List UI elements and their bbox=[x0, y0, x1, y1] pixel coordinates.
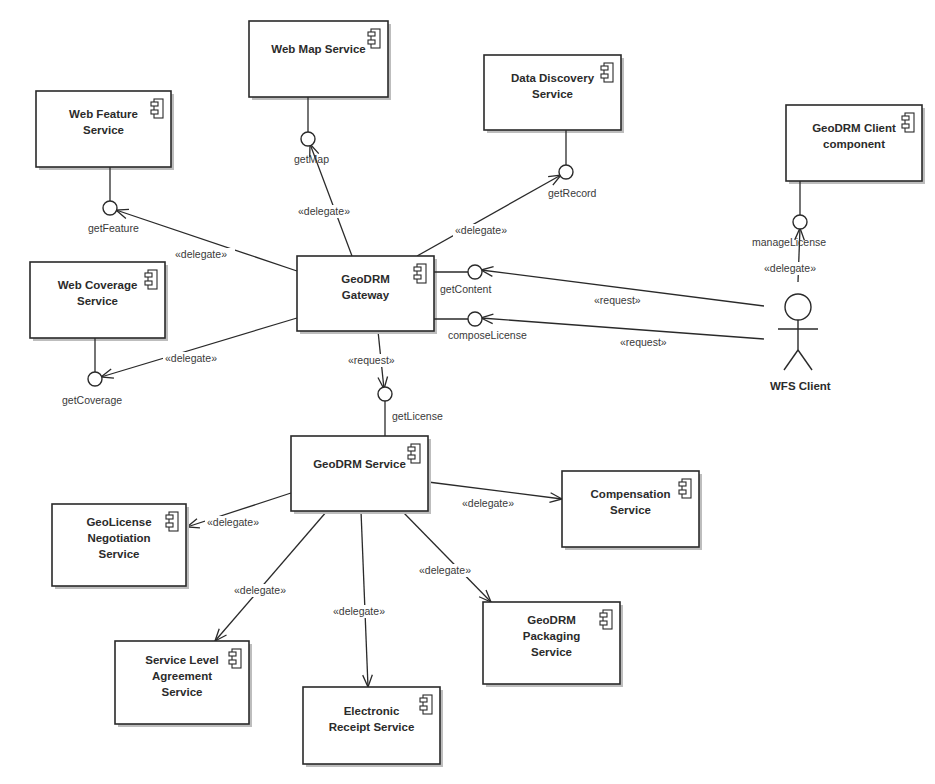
interface-label: getCoverage bbox=[62, 394, 122, 406]
component-title: Service bbox=[83, 124, 124, 136]
component-dds[interactable]: Data DiscoveryService bbox=[484, 55, 624, 133]
interface-getCoverage[interactable]: getCoverage bbox=[62, 338, 122, 406]
component-title: Service bbox=[77, 295, 118, 307]
component-wfs[interactable]: Web FeatureService bbox=[36, 91, 174, 170]
stereotype-label: «delegate» bbox=[453, 224, 515, 237]
actor-wfs-client[interactable]: WFS Client bbox=[770, 294, 831, 392]
provided-interface-icon bbox=[103, 201, 117, 215]
interface-label: getContent bbox=[440, 283, 491, 295]
actor-label: WFS Client bbox=[770, 380, 831, 392]
stereotype-label: «delegate» bbox=[173, 248, 235, 261]
component-title: Service bbox=[99, 548, 140, 560]
provided-interface-icon bbox=[301, 132, 315, 146]
interface-composeLicense[interactable]: composeLicense bbox=[434, 312, 527, 341]
stereotype-text: «delegate» bbox=[764, 262, 816, 274]
open-arrowhead-icon bbox=[548, 175, 561, 185]
dependency-edge[interactable] bbox=[402, 511, 491, 602]
component-title: GeoDRM bbox=[527, 614, 576, 626]
component-wms[interactable]: Web Map Service bbox=[249, 21, 391, 100]
stereotype-label: «delegate» bbox=[205, 516, 267, 529]
component-gateway[interactable]: GeoDRMGateway bbox=[297, 256, 437, 334]
stereotype-label: «delegate» bbox=[762, 262, 824, 275]
component-service[interactable]: GeoDRM Service bbox=[291, 436, 431, 514]
component-sla[interactable]: Service LevelAgreementService bbox=[115, 641, 252, 727]
interface-label: composeLicense bbox=[448, 329, 527, 341]
component-client[interactable]: GeoDRM Clientcomponent bbox=[786, 105, 925, 184]
stereotype-text: «request» bbox=[594, 294, 641, 306]
interface-label: getFeature bbox=[88, 222, 139, 234]
stereotype-label: «delegate» bbox=[331, 605, 393, 618]
component-title: Web Feature bbox=[69, 108, 138, 120]
interface-getRecord[interactable]: getRecord bbox=[548, 130, 597, 199]
stereotype-text: «delegate» bbox=[234, 584, 286, 596]
stereotype-label: «delegate» bbox=[163, 352, 225, 365]
stereotype-label: «request» bbox=[346, 354, 402, 367]
interfaces-layer: getMapgetRecordgetFeaturemanageLicensege… bbox=[62, 97, 826, 436]
component-title: Electronic bbox=[344, 705, 400, 717]
dependency-edge[interactable] bbox=[417, 175, 561, 256]
interface-manageLicense[interactable]: manageLicense bbox=[752, 181, 826, 248]
component-title: Service bbox=[162, 686, 203, 698]
stereotype-text: «delegate» bbox=[419, 564, 471, 576]
stereotype-text: «request» bbox=[348, 354, 395, 366]
component-comp[interactable]: CompensationService bbox=[562, 471, 702, 550]
component-title: component bbox=[823, 138, 885, 150]
stereotype-label: «delegate» bbox=[232, 584, 294, 597]
component-title: Packaging bbox=[523, 630, 581, 642]
interface-label: getLicense bbox=[392, 410, 443, 422]
interface-label: manageLicense bbox=[752, 236, 826, 248]
component-pack[interactable]: GeoDRMPackagingService bbox=[483, 602, 623, 687]
actor-stick-figure-icon bbox=[778, 294, 818, 370]
stereotype-label: «delegate» bbox=[460, 497, 522, 510]
component-title: Receipt Service bbox=[329, 721, 415, 733]
stereotype-text: «delegate» bbox=[207, 516, 259, 528]
stereotype-text: «delegate» bbox=[462, 497, 514, 509]
provided-interface-icon bbox=[793, 215, 807, 229]
provided-interface-icon bbox=[559, 165, 573, 179]
component-title: Agreement bbox=[152, 670, 212, 682]
component-nego[interactable]: GeoLicenseNegotiationService bbox=[52, 504, 189, 589]
stereotype-text: «request» bbox=[620, 336, 667, 348]
stereotype-text: «delegate» bbox=[175, 248, 227, 260]
dependency-line bbox=[417, 175, 561, 256]
components-layer: Web Map ServiceData DiscoveryServiceWeb … bbox=[30, 21, 925, 767]
stereotype-text: «delegate» bbox=[333, 605, 385, 617]
component-receipt[interactable]: ElectronicReceipt Service bbox=[303, 687, 443, 767]
component-title: GeoDRM Client bbox=[812, 122, 896, 134]
component-title: Gateway bbox=[342, 289, 390, 301]
dependency-edge[interactable] bbox=[215, 511, 327, 641]
component-wcs[interactable]: Web CoverageService bbox=[30, 262, 168, 341]
dependency-line bbox=[215, 511, 327, 641]
interface-getFeature[interactable]: getFeature bbox=[88, 167, 139, 234]
provided-interface-icon bbox=[468, 312, 482, 326]
component-title: GeoDRM Service bbox=[313, 458, 406, 470]
interface-label: getMap bbox=[294, 153, 329, 165]
component-title: Negotiation bbox=[87, 532, 150, 544]
uml-component-diagram: Web Map ServiceData DiscoveryServiceWeb … bbox=[0, 0, 935, 784]
component-title: Service bbox=[531, 646, 572, 658]
interface-label: getRecord bbox=[548, 187, 597, 199]
component-box bbox=[249, 21, 388, 97]
dependency-line bbox=[402, 511, 491, 602]
stereotype-label: «delegate» bbox=[296, 205, 358, 218]
component-title: Web Coverage bbox=[58, 279, 138, 291]
stereotype-label: «request» bbox=[592, 294, 648, 307]
stereotype-text: «delegate» bbox=[298, 205, 350, 217]
component-title: Compensation bbox=[591, 488, 671, 500]
component-title: GeoLicense bbox=[86, 516, 151, 528]
edges-layer bbox=[101, 144, 804, 687]
component-title: Service bbox=[610, 504, 651, 516]
component-title: GeoDRM bbox=[341, 273, 390, 285]
dependency-edge[interactable] bbox=[361, 511, 372, 687]
component-title: Data Discovery bbox=[511, 72, 595, 84]
component-title: Web Map Service bbox=[271, 43, 365, 55]
dependency-line bbox=[361, 511, 368, 687]
component-title: Service Level bbox=[145, 654, 219, 666]
stereotype-label: «request» bbox=[618, 336, 674, 349]
provided-interface-icon bbox=[88, 372, 102, 386]
interface-getMap[interactable]: getMap bbox=[294, 97, 329, 165]
stereotype-text: «delegate» bbox=[165, 352, 217, 364]
interface-getLicense[interactable]: getLicense bbox=[378, 387, 443, 436]
provided-interface-icon bbox=[468, 265, 482, 279]
stereotype-text: «delegate» bbox=[455, 224, 507, 236]
